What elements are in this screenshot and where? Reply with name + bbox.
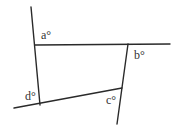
- top-line: [35, 44, 170, 45]
- angle-label-a: a°: [41, 28, 51, 42]
- angle-diagram: a° b° c° d°: [0, 0, 177, 126]
- angle-label-c: c°: [106, 93, 116, 107]
- angle-label-b: b°: [134, 48, 145, 62]
- right-line: [117, 44, 128, 124]
- angle-label-d: d°: [25, 89, 36, 103]
